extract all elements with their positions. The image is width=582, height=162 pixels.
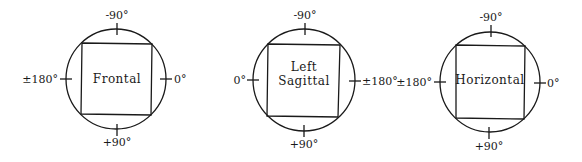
frontal-label-top: -90° <box>105 9 128 22</box>
horizontal-label-bottom: +90° <box>475 140 504 153</box>
horizontal-label-top: -90° <box>479 11 502 24</box>
frontal-plane-diagram: -90° +90° ±180° 0° Frontal <box>22 9 186 149</box>
frontal-label-right: 0° <box>174 73 187 86</box>
horizontal-title: Horizontal <box>455 73 524 87</box>
sagittal-label-right: ±180° <box>362 75 398 88</box>
sagittal-title-line2: Sagittal <box>278 74 330 88</box>
anatomical-planes-figure: -90° +90° ±180° 0° Frontal -90° +90° 0° … <box>0 0 582 162</box>
sagittal-label-left: 0° <box>234 74 247 87</box>
frontal-label-bottom: +90° <box>103 136 132 149</box>
sagittal-label-top: -90° <box>293 9 316 22</box>
frontal-label-left: ±180° <box>22 73 58 86</box>
horizontal-label-right: 0° <box>547 77 560 90</box>
sagittal-label-bottom: +90° <box>290 138 319 151</box>
sagittal-title-line1: Left <box>291 60 317 74</box>
horizontal-label-left: ±180° <box>396 76 432 89</box>
horizontal-plane-diagram: -90° +90° ±180° 0° Horizontal <box>396 11 559 153</box>
left-sagittal-plane-diagram: -90° +90° 0° ±180° Left Sagittal <box>234 9 398 151</box>
frontal-title: Frontal <box>93 72 141 86</box>
